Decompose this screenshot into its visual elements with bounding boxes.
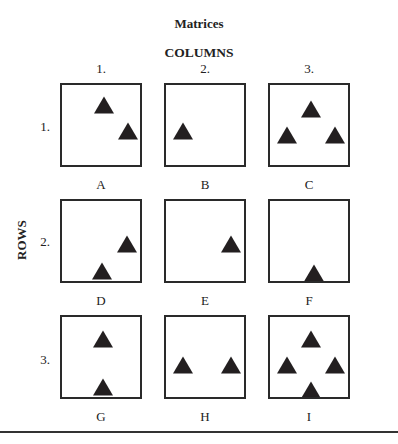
matrix-cell-c: [268, 83, 350, 167]
cell-label: D: [86, 293, 116, 309]
cell-label: F: [294, 293, 324, 309]
matrix-cell-g: [60, 315, 142, 399]
triangle-icon: [304, 265, 324, 282]
triangle-icon: [117, 236, 137, 253]
matrix-cell-h: [164, 315, 246, 399]
triangle-icon: [93, 379, 113, 396]
columns-heading: COLUMNS: [0, 45, 398, 61]
triangle-icon: [301, 101, 321, 118]
column-number-3: 3.: [294, 61, 324, 77]
triangle-icon: [325, 357, 345, 374]
rows-heading: ROWS: [14, 215, 30, 265]
triangle-icon: [92, 263, 112, 280]
triangle-icon: [118, 123, 138, 140]
triangle-icon: [173, 123, 193, 140]
cell-label: G: [86, 409, 116, 425]
row-number-1: 1.: [30, 119, 50, 135]
matrix-cell-e: [164, 199, 246, 283]
matrix-cell-b: [164, 83, 246, 167]
row-number-3: 3.: [30, 352, 50, 368]
column-number-1: 1.: [86, 61, 116, 77]
cell-label: E: [190, 293, 220, 309]
triangle-icon: [325, 127, 345, 144]
triangle-icon: [301, 382, 321, 398]
triangle-icon: [94, 97, 114, 114]
triangle-icon: [277, 357, 297, 374]
matrix-cell-d: [60, 199, 142, 283]
triangle-icon: [93, 331, 113, 348]
triangle-icon: [173, 357, 193, 374]
row-number-2: 2.: [30, 234, 50, 250]
cell-label: I: [294, 409, 324, 425]
triangle-icon: [301, 331, 321, 348]
triangle-icon: [221, 236, 241, 253]
cell-label: H: [190, 409, 220, 425]
matrix-cell-a: [60, 83, 142, 167]
matrix-cell-i: [268, 315, 350, 399]
cell-label: B: [190, 177, 220, 193]
triangle-icon: [277, 127, 297, 144]
bottom-divider: [0, 431, 398, 433]
cell-label: C: [294, 177, 324, 193]
page-title: Matrices: [0, 16, 398, 32]
triangle-icon: [221, 357, 241, 374]
column-number-2: 2.: [190, 61, 220, 77]
cell-label: A: [86, 177, 116, 193]
matrix-cell-f: [268, 199, 350, 283]
